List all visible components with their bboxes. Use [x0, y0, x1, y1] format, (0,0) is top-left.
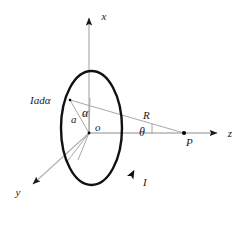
- loop-radius-label: a: [71, 113, 77, 125]
- axis-group: [33, 18, 217, 184]
- x-axis-label: x: [101, 10, 107, 22]
- z-axis-label: z: [227, 127, 233, 139]
- origin-point: [88, 132, 91, 135]
- current-direction-arrow: [127, 168, 138, 179]
- current-element-point: [69, 99, 72, 102]
- origin-label: o: [95, 121, 101, 133]
- current-element-label: Iadα: [29, 94, 51, 106]
- current-loop: [61, 71, 122, 185]
- theta-angle-label: θ: [139, 125, 145, 139]
- diagram-canvas: x y z o P Iadα a α R θ I: [0, 0, 247, 229]
- field-point-P: [182, 131, 186, 135]
- lower-left-spoke: [66, 133, 89, 163]
- field-point-label: P: [185, 136, 193, 148]
- lower-spoke: [78, 133, 89, 160]
- physics-diagram: x y z o P Iadα a α R θ I: [0, 0, 247, 229]
- y-axis-label: y: [15, 186, 21, 198]
- alpha-angle-label: α: [82, 106, 89, 120]
- distance-R-label: R: [142, 109, 150, 121]
- current-label: I: [142, 176, 148, 188]
